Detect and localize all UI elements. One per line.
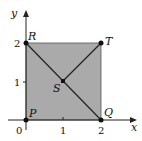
x-axis-label: x xyxy=(131,121,138,134)
label-T: T xyxy=(105,35,114,48)
point-T xyxy=(99,41,104,46)
x-tick-label-0: 0 xyxy=(16,125,22,136)
point-Q xyxy=(99,118,104,123)
point-P xyxy=(24,118,29,123)
label-Q: Q xyxy=(104,106,113,119)
label-R: R xyxy=(27,30,36,43)
point-S xyxy=(61,79,65,83)
y-tick-label-1: 1 xyxy=(14,77,20,88)
y-axis-arrow-icon xyxy=(23,10,29,17)
label-P: P xyxy=(28,107,37,120)
y-tick-label-2: 2 xyxy=(14,38,20,49)
x-tick-label-1: 1 xyxy=(60,125,66,136)
label-S: S xyxy=(53,82,61,95)
x-tick-label-2: 2 xyxy=(98,125,104,136)
y-axis-label: y xyxy=(10,7,18,20)
coordinate-diagram: y x 0 1 2 1 2 P Q R S T xyxy=(0,0,142,141)
